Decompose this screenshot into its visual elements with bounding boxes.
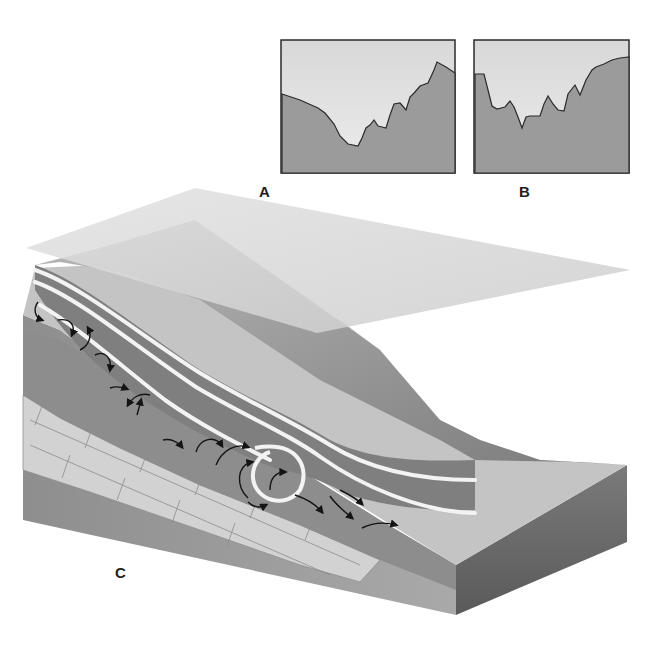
geology-figure: A B C [0, 0, 646, 650]
figure-canvas [0, 0, 646, 650]
panel-label-a: A [259, 183, 270, 200]
panel-b-profile [474, 40, 629, 173]
panel-label-b: B [519, 183, 530, 200]
panel-label-c: C [115, 564, 126, 581]
panel-a-profile [281, 40, 455, 173]
panel-c-block-diagram [23, 188, 630, 615]
